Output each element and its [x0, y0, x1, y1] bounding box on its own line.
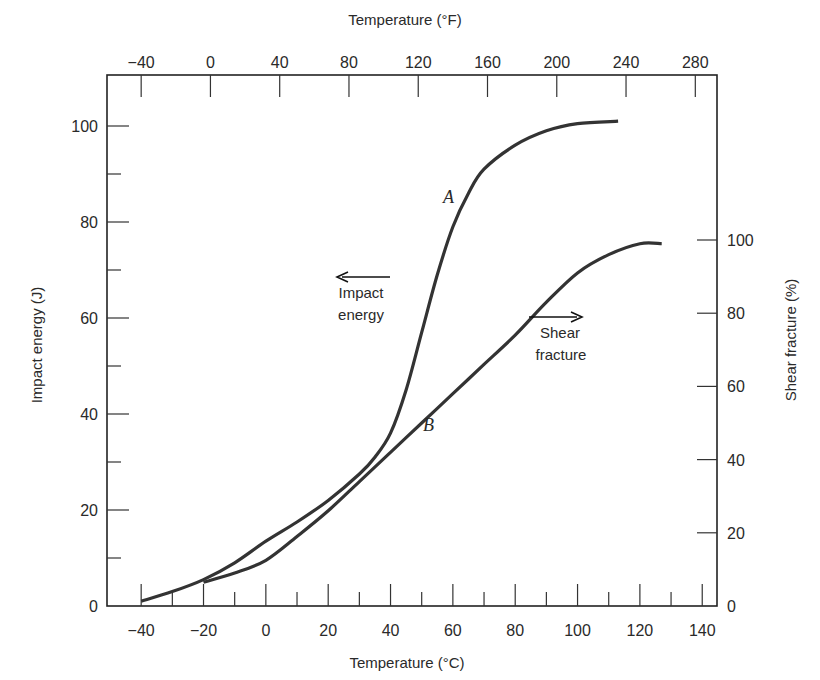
- y-tick-label: 40: [80, 406, 98, 423]
- axis-ticks: [107, 75, 717, 606]
- impact-label-line1: Impact: [338, 284, 384, 301]
- x-tick-label: 60: [444, 622, 462, 639]
- x2-tick-label: 0: [206, 54, 215, 71]
- top-axis-title: Temperature (°F): [348, 11, 462, 28]
- shear-label-line1: Shear: [540, 324, 580, 341]
- y-tick-label: 100: [71, 118, 98, 135]
- x-tick-label: −40: [128, 622, 155, 639]
- impact-label-line2: energy: [338, 306, 384, 323]
- x-tick-label: 100: [564, 622, 591, 639]
- x-tick-label: 120: [627, 622, 654, 639]
- x-tick-label: 0: [261, 622, 270, 639]
- y2-tick-label: 80: [727, 305, 745, 322]
- shear-label-line2: fracture: [536, 346, 587, 363]
- plot-frame: [107, 75, 717, 606]
- y-tick-label: 20: [80, 502, 98, 519]
- y2-tick-label: 0: [727, 598, 736, 615]
- y-tick-label: 0: [89, 598, 98, 615]
- chart-canvas: −40−20020406080100120140−400408012016020…: [0, 0, 820, 680]
- x2-tick-label: 280: [682, 54, 709, 71]
- y2-tick-label: 20: [727, 525, 745, 542]
- y2-tick-label: 100: [727, 232, 754, 249]
- x2-tick-label: −40: [128, 54, 155, 71]
- right-axis-title: Shear fracture (%): [782, 279, 799, 402]
- impact-energy-annotation: Impact energy: [337, 272, 390, 323]
- x2-tick-label: 200: [543, 54, 570, 71]
- x-tick-label: −20: [190, 622, 217, 639]
- bottom-axis-title: Temperature (°C): [349, 654, 464, 671]
- x2-tick-label: 240: [613, 54, 640, 71]
- y-tick-label: 80: [80, 214, 98, 231]
- x-tick-label: 20: [319, 622, 337, 639]
- x2-tick-label: 80: [340, 54, 358, 71]
- axis-tick-labels: −40−20020406080100120140−400408012016020…: [71, 54, 754, 639]
- y2-tick-label: 40: [727, 452, 745, 469]
- left-axis-title: Impact energy (J): [28, 287, 45, 404]
- curve-a-label: A: [442, 187, 455, 207]
- x-tick-label: 40: [382, 622, 400, 639]
- y2-tick-label: 60: [727, 378, 745, 395]
- shear-fracture-annotation: Shear fracture: [529, 312, 586, 363]
- curve-b-label: B: [423, 415, 434, 435]
- x2-tick-label: 120: [405, 54, 432, 71]
- x-tick-label: 140: [689, 622, 716, 639]
- x-tick-label: 80: [506, 622, 524, 639]
- x2-tick-label: 40: [271, 54, 289, 71]
- x2-tick-label: 160: [474, 54, 501, 71]
- y-tick-label: 60: [80, 310, 98, 327]
